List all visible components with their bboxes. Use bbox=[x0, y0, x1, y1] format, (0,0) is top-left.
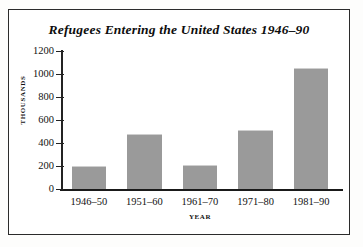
y-axis-tick-label: 400 bbox=[8, 138, 54, 148]
y-axis-tick-label-wrap: 1000 bbox=[4, 69, 54, 79]
x-axis-tick-label: 1971–80 bbox=[228, 196, 284, 207]
bar bbox=[72, 166, 106, 189]
y-axis-tick-label-wrap: 800 bbox=[4, 92, 54, 102]
x-axis-title: YEAR bbox=[61, 213, 339, 221]
bar bbox=[183, 165, 217, 189]
x-axis-tick-label: 1951–60 bbox=[117, 196, 173, 207]
y-axis-tick bbox=[56, 189, 64, 190]
y-axis-tick-label-wrap: 600 bbox=[4, 115, 54, 125]
bar bbox=[127, 134, 161, 189]
y-axis-tick-label-wrap: 0 bbox=[4, 184, 54, 194]
y-axis-tick-label: 200 bbox=[8, 161, 54, 171]
chart-title: Refugees Entering the United States 1946… bbox=[8, 22, 350, 38]
x-axis-tick-label: 1961–70 bbox=[172, 196, 228, 207]
y-axis-tick-label-wrap: 400 bbox=[4, 138, 54, 148]
bar bbox=[238, 130, 272, 189]
y-axis-tick-label: 800 bbox=[8, 92, 54, 102]
x-axis-tick-label: 1981–90 bbox=[283, 196, 339, 207]
y-axis-tick-label: 600 bbox=[8, 115, 54, 125]
plot-area bbox=[61, 51, 339, 189]
y-axis-tick-label-wrap: 1200 bbox=[4, 46, 54, 56]
chart-figure: Refugees Entering the United States 1946… bbox=[0, 0, 363, 247]
y-axis-tick-label: 1000 bbox=[8, 69, 54, 79]
x-axis-tick-label: 1946–50 bbox=[61, 196, 117, 207]
bar bbox=[294, 68, 328, 189]
x-axis-line bbox=[60, 189, 343, 191]
y-axis-tick-label-wrap: 200 bbox=[4, 161, 54, 171]
y-axis-tick-label: 0 bbox=[8, 184, 54, 194]
y-axis-tick-label: 1200 bbox=[8, 46, 54, 56]
